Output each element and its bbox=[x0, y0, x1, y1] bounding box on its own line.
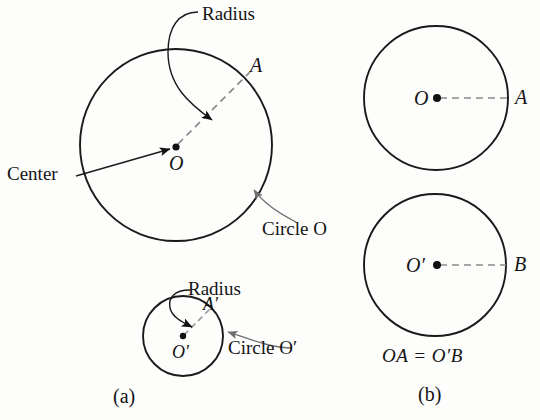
center-label-o-top-right: O bbox=[414, 88, 428, 108]
large-circle-radius-segment bbox=[178, 72, 250, 144]
panel-b-top-circle-group bbox=[364, 26, 508, 170]
radius-callout-large: Radius bbox=[202, 4, 255, 23]
point-label-a-large: A bbox=[250, 55, 262, 75]
center-label-o-prime-small: O′ bbox=[172, 343, 189, 361]
panel-b-caption: (b) bbox=[418, 384, 441, 404]
panel-b-bottom-circle-group bbox=[364, 194, 506, 336]
point-label-b-bottom-right: B bbox=[514, 254, 526, 274]
small-circle-center-dot bbox=[180, 333, 186, 339]
circle-callout-large: Circle O bbox=[262, 219, 327, 238]
point-label-a-prime-small: A′ bbox=[203, 295, 218, 313]
center-leader-arrow bbox=[76, 149, 170, 176]
panel-b-equation: OA = O′B bbox=[382, 346, 463, 365]
center-callout-large: Center bbox=[7, 164, 58, 183]
circle-callout-small: Circle O′ bbox=[228, 338, 297, 357]
point-label-a-top-right: A bbox=[515, 87, 527, 107]
center-label-o-prime-bottom-right: O′ bbox=[406, 255, 425, 275]
figure-root: Radius A O Center Circle O Radius A′ O′ … bbox=[0, 0, 540, 420]
large-circle-center-dot bbox=[172, 143, 179, 150]
top-right-center-dot bbox=[433, 94, 441, 102]
center-label-o-large: O bbox=[169, 153, 183, 173]
panel-a-large-circle-group bbox=[76, 12, 296, 241]
radius-leader-arrow bbox=[168, 12, 212, 120]
panel-a-caption: (a) bbox=[113, 386, 135, 406]
bottom-right-center-dot bbox=[433, 261, 441, 269]
